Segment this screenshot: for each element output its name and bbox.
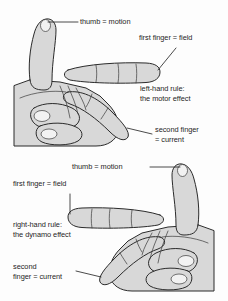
leader-second-finger-bottom xyxy=(76,271,101,277)
label-right-hand-rule: right-hand rule: the dynamo effect xyxy=(13,220,71,239)
label-thumb-left-hand-text: thumb = motion xyxy=(80,17,130,27)
label-thumb-right-hand: thumb = motion xyxy=(72,162,122,172)
label-first-finger-right-hand-text: first finger = field xyxy=(13,179,66,189)
label-thumb-left-hand: thumb = motion xyxy=(80,17,130,27)
label-thumb-right-hand-text: thumb = motion xyxy=(72,162,122,172)
left-hand-rule-title: left-hand rule: xyxy=(140,84,190,94)
left-hand-rule-subtitle: the motor effect xyxy=(140,94,190,104)
hand-illustrations: .fill{fill:#d8d8d8;stroke:#2b2b2b;stroke… xyxy=(0,0,228,301)
label-first-finger-right-hand: first finger = field xyxy=(13,179,66,189)
label-second-finger-right-hand-line1: second xyxy=(13,262,62,272)
label-first-finger-left-hand-text: first finger = field xyxy=(139,33,192,43)
label-second-finger-right-hand: second finger = current xyxy=(13,262,62,281)
label-second-finger-left-hand-line2: = current xyxy=(155,135,199,145)
leader-first-finger-top xyxy=(158,48,176,70)
fleming-rules-figure: .fill{fill:#d8d8d8;stroke:#2b2b2b;stroke… xyxy=(0,0,228,301)
label-first-finger-left-hand: first finger = field xyxy=(139,33,192,43)
label-left-hand-rule: left-hand rule: the motor effect xyxy=(140,84,190,103)
label-second-finger-left-hand: second finger = current xyxy=(155,125,199,144)
right-hand-drawing xyxy=(68,164,214,291)
leader-second-finger-top xyxy=(127,128,152,134)
label-second-finger-left-hand-line1: second finger xyxy=(155,125,199,135)
right-hand-rule-subtitle: the dynamo effect xyxy=(13,230,71,240)
right-hand-rule-title: right-hand rule: xyxy=(13,220,71,230)
label-second-finger-right-hand-line2: finger = current xyxy=(13,272,62,282)
